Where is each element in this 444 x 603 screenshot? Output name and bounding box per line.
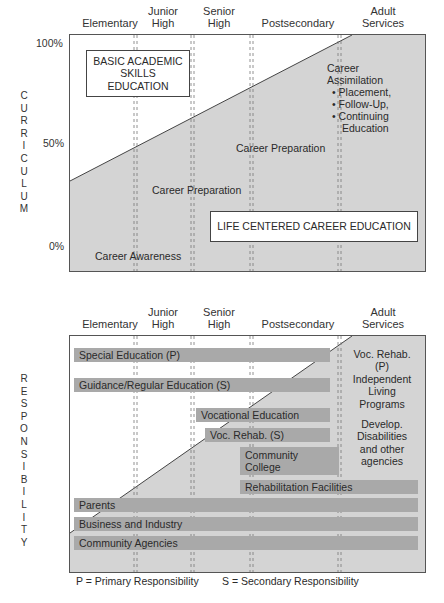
bar-rehabilitation-facilities: Rehabilitation Facilities bbox=[240, 480, 418, 494]
header-senior-high-line2: High bbox=[199, 17, 239, 29]
bar-community-agencies: Community Agencies bbox=[74, 536, 418, 550]
header-elementary-2: Elementary bbox=[75, 318, 145, 330]
life-centered-career-education-box: LIFE CENTERED CAREER EDUCATION bbox=[210, 211, 418, 242]
career-preparation-label-high: Career Preparation bbox=[236, 142, 325, 154]
basic-academic-skills-box: BASIC ACADEMIC SKILLS EDUCATION bbox=[86, 50, 190, 97]
bar-parents: Parents bbox=[74, 498, 418, 512]
y-tick-50: 50% bbox=[43, 137, 64, 149]
header-adult-services-line2: Services bbox=[360, 17, 406, 29]
y-tick-0: 0% bbox=[49, 240, 64, 252]
bullet-continuing-education: Education bbox=[342, 122, 389, 134]
bar-community-college: Community College bbox=[240, 447, 339, 475]
header-junior-high-line1: Junior bbox=[143, 5, 183, 17]
header-adult-services-2-line1: Adult bbox=[360, 306, 406, 318]
bullet-continuing: • Continuing bbox=[332, 110, 389, 122]
bar-business-and-industry: Business and Industry bbox=[74, 517, 418, 531]
header-senior-high-2-line1: Senior bbox=[199, 306, 239, 318]
bar-special-education: Special Education (P) bbox=[74, 348, 330, 362]
curriculum-axis-label: C U R R I C U L U M bbox=[18, 90, 30, 216]
bar-vocational-education: Vocational Education bbox=[196, 408, 330, 422]
header-postsecondary-2: Postsecondary bbox=[258, 318, 338, 330]
career-preparation-label-low: Career Preparation bbox=[152, 184, 241, 196]
legend-primary: P = Primary Responsibility bbox=[76, 575, 199, 587]
bullet-placement: • Placement, bbox=[332, 86, 391, 98]
y-tick-100: 100% bbox=[36, 37, 63, 49]
header-junior-high-2-line1: Junior bbox=[143, 306, 183, 318]
header-adult-services-2-line2: Services bbox=[360, 318, 406, 330]
bar-guidance-regular-education: Guidance/Regular Education (S) bbox=[74, 378, 330, 392]
header-adult-services-line1: Adult bbox=[360, 5, 406, 17]
header-junior-high-line2: High bbox=[143, 17, 183, 29]
bullet-follow-up: • Follow-Up, bbox=[332, 98, 389, 110]
header-postsecondary: Postsecondary bbox=[258, 17, 338, 29]
legend-secondary: S = Secondary Responsibility bbox=[222, 575, 359, 587]
responsibility-axis-label: R E S P O N S I B I L I T Y bbox=[18, 373, 30, 549]
header-senior-high-2-line2: High bbox=[199, 318, 239, 330]
career-assimilation-label-1: Career bbox=[327, 62, 359, 74]
header-elementary: Elementary bbox=[75, 17, 145, 29]
adult-services-text: Voc. Rehab. (P) Independent Living Progr… bbox=[349, 348, 415, 468]
career-assimilation-label-2: Assimilation bbox=[327, 74, 383, 86]
header-senior-high-line1: Senior bbox=[199, 5, 239, 17]
career-awareness-label: Career Awareness bbox=[95, 250, 181, 262]
bar-voc-rehab-secondary: Voc. Rehab. (S) bbox=[205, 428, 330, 442]
header-junior-high-2-line2: High bbox=[143, 318, 183, 330]
